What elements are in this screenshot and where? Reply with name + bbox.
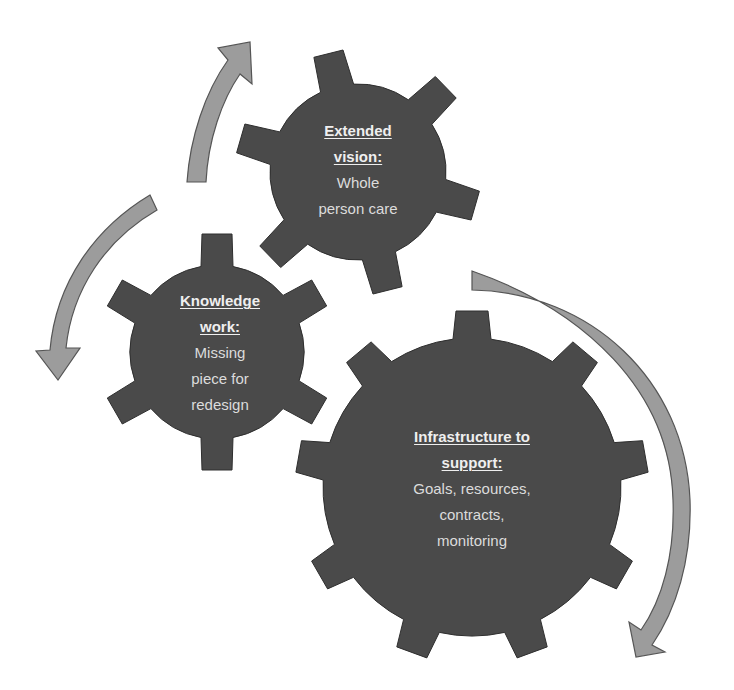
gear-body-text: Whole bbox=[318, 170, 397, 196]
gear-body-text: person care bbox=[318, 196, 397, 222]
gear-label-knowledge-work: Knowledge work: Missing piece for redesi… bbox=[180, 288, 260, 418]
gear-label-extended-vision: Extended vision: Whole person care bbox=[318, 118, 397, 222]
gear-body-text: Missing bbox=[180, 340, 260, 366]
gear-heading: vision: bbox=[318, 144, 397, 170]
gear-body-text: Goals, resources, bbox=[413, 476, 531, 502]
gear-heading: Extended bbox=[318, 118, 397, 144]
gear-heading: work: bbox=[180, 314, 260, 340]
gear-label-infrastructure: Infrastructure to support: Goals, resour… bbox=[413, 424, 531, 554]
gear-body-text: contracts, bbox=[413, 502, 531, 528]
gear-body-text: redesign bbox=[180, 392, 260, 418]
curved-arrow-up-icon bbox=[187, 42, 252, 182]
gear-body-text: monitoring bbox=[413, 528, 531, 554]
gear-heading: Infrastructure to bbox=[413, 424, 531, 450]
gear-cycle-diagram bbox=[0, 0, 734, 690]
gear-heading: support: bbox=[413, 450, 531, 476]
gear-heading: Knowledge bbox=[180, 288, 260, 314]
gear-body-text: piece for bbox=[180, 366, 260, 392]
